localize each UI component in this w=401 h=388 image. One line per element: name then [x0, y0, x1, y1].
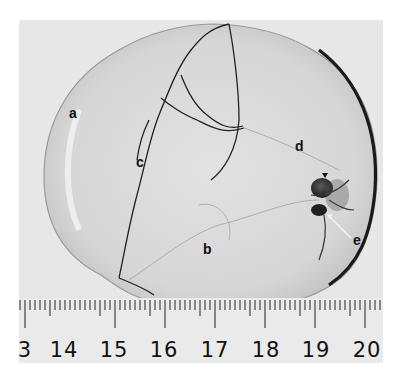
ruler-label-14: 14 [50, 340, 79, 361]
ruler-label-19: 19 [302, 340, 331, 361]
ruler-ticks [19, 298, 383, 338]
label-d: d [295, 139, 304, 153]
label-a: a [69, 106, 77, 120]
ruler-label-17: 17 [201, 340, 230, 361]
ruler-label-13: 3 [19, 340, 32, 361]
label-b: b [203, 242, 212, 256]
ruler-label-16: 16 [150, 340, 179, 361]
ruler-label-20: 20 [353, 340, 382, 361]
specimen-photograph: 3 14 15 16 17 18 19 20 [19, 20, 383, 363]
ruler-label-15: 15 [100, 340, 129, 361]
label-c: c [136, 155, 144, 169]
ruler: 3 14 15 16 17 18 19 20 [19, 298, 383, 363]
specimen-outline [44, 24, 377, 309]
ruler-label-18: 18 [252, 340, 281, 361]
label-e: e [353, 233, 361, 247]
